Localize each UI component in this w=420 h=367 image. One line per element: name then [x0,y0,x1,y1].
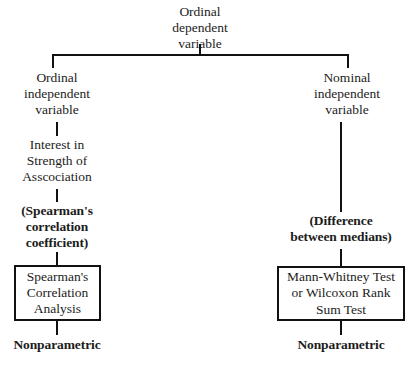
connector-left-variable-to-interest [56,122,58,136]
flowchart-diagram: Ordinal dependent variable Ordinal indep… [0,0,420,367]
connector-split-left-drop [52,54,54,68]
connector-right-box-to-classification [340,321,342,335]
connector-split-right-drop [347,54,349,68]
connector-split-bar [52,54,349,56]
node-ordinal-independent-variable: Ordinal independent variable [3,70,111,118]
node-nominal-independent-variable: Nominal independent variable [290,70,404,118]
connector-right-statistic-to-box [340,249,342,266]
connector-left-statistic-to-box [56,252,58,265]
label-right-nonparametric: Nonparametric [284,337,398,353]
node-spearman-correlation-coefficient: (Spearman's correlation coefficient) [3,203,111,251]
box-mann-whitney-wilcoxon-test: Mann-Whitney Test or Wilcoxon Rank Sum T… [277,266,405,321]
connector-left-box-to-classification [56,321,58,335]
node-difference-between-medians: (Difference between medians) [271,213,411,245]
connector-left-interest-to-statistic [56,189,58,202]
box-spearman-correlation-analysis: Spearman's Correlation Analysis [14,265,101,321]
label-left-nonparametric: Nonparametric [0,337,114,353]
node-interest-in-strength-of-association: Interest in Strength of Asscociation [3,137,111,185]
connector-right-variable-to-statistic [340,122,342,212]
